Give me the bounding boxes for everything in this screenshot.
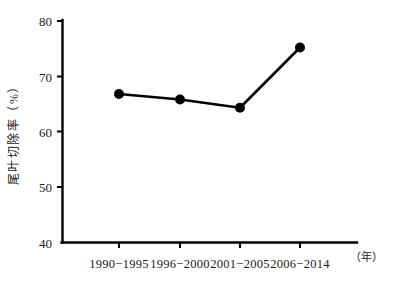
y-tick-label-40: 40 xyxy=(39,236,52,251)
y-tick-label-60: 60 xyxy=(39,125,52,140)
y-axis-title: 尾叶切除率（%） xyxy=(6,79,21,185)
y-tick-label-50: 50 xyxy=(39,180,52,195)
data-point-3 xyxy=(235,103,245,113)
y-tick-label-70: 70 xyxy=(39,70,52,85)
data-point-1 xyxy=(114,89,124,99)
chart-canvas: 80 70 60 50 40 尾叶切除率（%） 1990−1995 1996−2… xyxy=(0,0,396,284)
series-markers xyxy=(114,43,305,113)
x-axis-unit-label: （年） xyxy=(350,250,383,263)
data-point-4 xyxy=(295,43,305,53)
series-line-tail-lobe-resection-rate xyxy=(119,48,300,108)
x-category-label-3: 2001−2005 xyxy=(210,257,270,271)
y-tick-label-80: 80 xyxy=(39,14,52,29)
line-chart: 80 70 60 50 40 尾叶切除率（%） 1990−1995 1996−2… xyxy=(0,0,396,284)
x-category-label-2: 1996−2000 xyxy=(150,257,210,271)
data-point-2 xyxy=(175,94,185,104)
x-category-label-4: 2006−2014 xyxy=(270,257,330,271)
x-category-label-1: 1990−1995 xyxy=(89,257,149,271)
